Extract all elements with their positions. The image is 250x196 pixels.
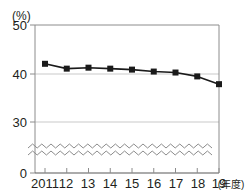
data-point-19 bbox=[216, 81, 222, 87]
y-tick-label-40: 40 bbox=[13, 67, 27, 82]
data-point-14 bbox=[107, 66, 113, 72]
x-tick-label-13: 13 bbox=[81, 176, 95, 191]
data-point-2011 bbox=[42, 61, 48, 67]
plot-area-background bbox=[35, 25, 219, 173]
data-point-17 bbox=[173, 70, 179, 76]
data-point-15 bbox=[129, 67, 135, 73]
data-point-13 bbox=[86, 65, 92, 71]
data-point-18 bbox=[194, 73, 200, 79]
y-tick-label-0: 0 bbox=[20, 166, 27, 181]
x-tick-label-16: 16 bbox=[147, 176, 161, 191]
data-point-16 bbox=[151, 69, 157, 75]
x-tick-label-12: 12 bbox=[59, 176, 73, 191]
x-tick-label-17: 17 bbox=[169, 176, 183, 191]
x-axis-caption: (年度) bbox=[218, 178, 245, 190]
x-tick-label-14: 14 bbox=[103, 176, 117, 191]
y-tick-label-50: 50 bbox=[13, 18, 27, 33]
line-chart: (%) 50 40 30 0 2011 12 13 14 15 16 17 18… bbox=[0, 0, 250, 196]
chart-container: (%) 50 40 30 0 2011 12 13 14 15 16 17 18… bbox=[0, 0, 250, 196]
x-tick-label-18: 18 bbox=[191, 176, 205, 191]
x-tick-label-15: 15 bbox=[125, 176, 139, 191]
data-point-12 bbox=[64, 66, 70, 72]
y-tick-label-30: 30 bbox=[13, 115, 27, 130]
x-tick-label-2011: 2011 bbox=[31, 176, 59, 191]
